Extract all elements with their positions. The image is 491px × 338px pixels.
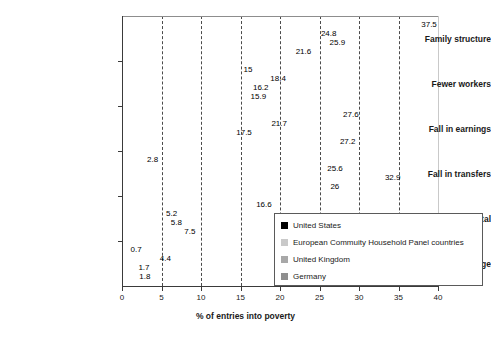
bar [122,201,253,210]
legend-swatch [281,273,288,280]
bar [122,174,382,183]
bar-value-label: 1.8 [139,272,150,281]
x-tick-label: 20 [265,293,295,302]
bar-value-label: 2.8 [147,155,158,164]
bar-value-label: 5.8 [171,218,182,227]
bar-value-label: 37.5 [421,20,437,29]
x-tick-label: 35 [384,293,414,302]
x-tick [438,286,439,291]
bar-value-label: 16.6 [256,200,272,209]
legend-label: European Commuity Household Panel countr… [293,238,464,247]
bar-value-label: 25.9 [330,38,346,47]
legend-label: Germany [293,272,326,281]
x-tick [399,286,400,291]
bar [122,228,181,237]
bar [122,21,418,30]
legend-item: United States [281,218,341,232]
bar [122,156,144,165]
x-tick [320,286,321,291]
bar-value-label: 15.9 [251,92,267,101]
category-label: Fall in earnings [373,124,491,134]
bar-value-label: 21.7 [271,119,287,128]
bar-value-label: 15 [244,65,253,74]
bar-value-label: 27.6 [343,110,359,119]
bar [122,111,340,120]
bar-value-label: 5.2 [166,209,177,218]
bar [122,264,135,273]
x-tick [201,286,202,291]
legend-item: Germany [281,269,326,283]
bar-value-label: 7.5 [184,227,195,236]
bar-value-label: 16.2 [253,83,269,92]
bar [122,273,136,282]
y-axis-tick [118,106,122,107]
bar [122,246,128,255]
bar [122,93,248,102]
bar [122,75,267,84]
legend-item: United Kingdom [281,252,350,266]
bar [122,30,318,39]
bar [122,165,324,174]
x-tick [359,286,360,291]
x-tick [280,286,281,291]
legend-swatch [281,239,288,246]
bar-value-label: 26 [330,182,339,191]
bar [122,48,293,57]
bar [122,66,241,75]
bar-value-label: 18.4 [270,74,286,83]
category-label: Family structure [373,34,491,44]
x-tick-label: 0 [107,293,137,302]
legend-label: United Kingdom [293,255,350,264]
bar-chart: 37.524.825.921.61518.416.215.927.621.717… [0,0,491,338]
bar-value-label: 25.6 [327,164,343,173]
bar [122,210,163,219]
bar [122,120,293,129]
legend-item: European Commuity Household Panel countr… [281,235,464,249]
y-axis-tick [118,241,122,242]
x-tick-label: 15 [226,293,256,302]
legend-swatch [281,256,288,263]
legend-label: United States [293,221,341,230]
bar [122,84,250,93]
x-tick [122,286,123,291]
bar-value-label: 21.6 [296,47,312,56]
bar-value-label: 24.8 [321,29,337,38]
bar-value-label: 1.7 [138,263,149,272]
bar-value-label: 4.4 [160,254,171,263]
bar [122,219,168,228]
x-tick-label: 40 [423,293,453,302]
bar-value-label: 17.5 [236,128,252,137]
x-tick-label: 10 [186,293,216,302]
y-axis-tick [118,196,122,197]
x-tick-label: 25 [305,293,335,302]
category-label: Fall in transfers [373,169,491,179]
x-tick [162,286,163,291]
bar-value-label: 27.2 [340,137,356,146]
category-label: Fewer workers [373,79,491,89]
bar [122,138,337,147]
x-tick-label: 5 [147,293,177,302]
bar-value-label: 0.7 [131,245,142,254]
legend-swatch [281,222,288,229]
x-tick [241,286,242,291]
x-axis-title: % of entries into poverty [0,311,491,321]
bar [122,183,327,192]
x-tick-label: 30 [344,293,374,302]
y-axis-tick [118,61,122,62]
y-axis-tick [118,151,122,152]
legend: United StatesEuropean Commuity Household… [274,213,483,286]
